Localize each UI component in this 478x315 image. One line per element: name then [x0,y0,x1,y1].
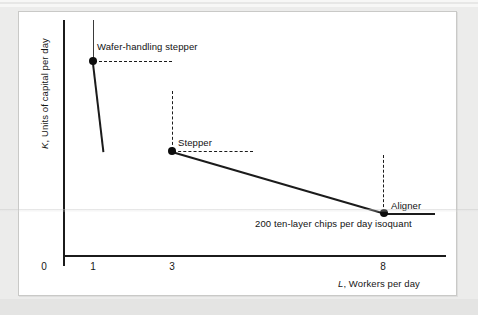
x-axis-label-text: , Workers per day [343,278,420,289]
y-axis-label-symbol: K [39,143,50,149]
y-axis-line [63,20,65,266]
guide-horizontal-stepper [173,151,253,152]
point-label-stepper: Stepper [178,137,212,148]
data-point-stepper[interactable] [168,147,176,155]
x-tick-label-8: 8 [375,261,391,272]
x-tick-label-0: 0 [36,261,52,272]
point-label-aligner: Aligner [391,200,421,211]
isoquant-segment-1 [92,62,104,152]
isoquant-label: 200 ten-layer chips per day isoquant [255,218,412,229]
page-background-bottom-band [0,299,478,315]
guide-horizontal-wafer-handling-stepper [94,61,172,62]
y-axis-label-text: , Units of capital per day [39,38,50,143]
screenshot-root: K, Units of capital per day L, Workers p… [0,0,478,315]
data-point-wafer-handling-stepper[interactable] [89,57,97,65]
point-label-wafer-handling-stepper: Wafer-handling stepper [97,41,198,52]
x-tick-label-1: 1 [85,261,101,272]
data-point-aligner[interactable] [380,209,388,217]
x-axis-line [63,255,446,257]
x-tick-label-3: 3 [164,261,180,272]
y-axis-label: K, Units of capital per day [39,9,50,179]
guide-vertical-wafer-handling-stepper [93,20,94,61]
guide-vertical-aligner [383,155,384,212]
isoquant-segment-2 [172,151,381,213]
isoquant-chart: K, Units of capital per day L, Workers p… [18,11,455,294]
page-background-top-strip [0,0,478,7]
x-axis-label: L, Workers per day [338,278,420,289]
guide-vertical-stepper [172,91,173,150]
isoquant-segment-tail [384,213,435,215]
